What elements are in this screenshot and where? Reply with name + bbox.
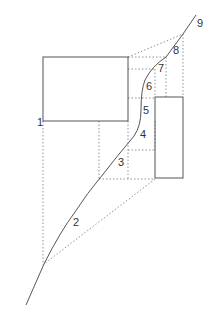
label-5: 5 [143, 104, 149, 116]
labels-layer: 1 2 3 4 5 6 7 8 9 [0, 0, 218, 320]
label-4: 4 [140, 128, 146, 140]
label-8: 8 [173, 44, 179, 56]
label-7: 7 [158, 62, 164, 74]
label-6: 6 [146, 80, 152, 92]
label-9: 9 [197, 17, 203, 29]
label-3: 3 [118, 156, 124, 168]
label-1: 1 [37, 116, 43, 128]
label-2: 2 [73, 216, 79, 228]
